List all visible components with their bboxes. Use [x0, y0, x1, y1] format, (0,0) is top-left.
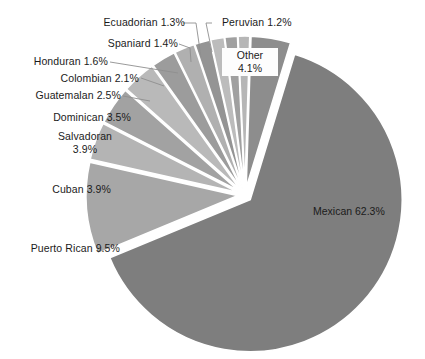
slice-label-guatemalan: Guatemalan 2.5%	[0, 89, 121, 102]
slice-label-ecuadorian: Ecuadorian 1.3%	[0, 16, 185, 29]
pie-chart-figure: Ecuadorian 1.3% Peruvian 1.2% Spaniard 1…	[0, 0, 425, 359]
pie-chart-canvas	[0, 0, 425, 359]
slice-label-spaniard: Spaniard 1.4%	[0, 37, 178, 50]
slice-label-dominican: Dominican 3.5%	[0, 111, 131, 124]
slice-label-salvadoran: Salvadoran 3.9%	[30, 130, 140, 155]
slice-label-puerto-rican: Puerto Rican 9.5%	[0, 242, 120, 255]
slice-label-other: Other 4.1%	[222, 48, 278, 76]
slice-label-honduran: Honduran 1.6%	[0, 55, 108, 68]
slice-label-cuban: Cuban 3.9%	[0, 183, 111, 196]
slice-label-colombian: Colombian 2.1%	[0, 72, 139, 85]
slice-label-mexican: Mexican 62.3%	[313, 205, 385, 218]
slice-label-peruvian: Peruvian 1.2%	[222, 16, 342, 29]
